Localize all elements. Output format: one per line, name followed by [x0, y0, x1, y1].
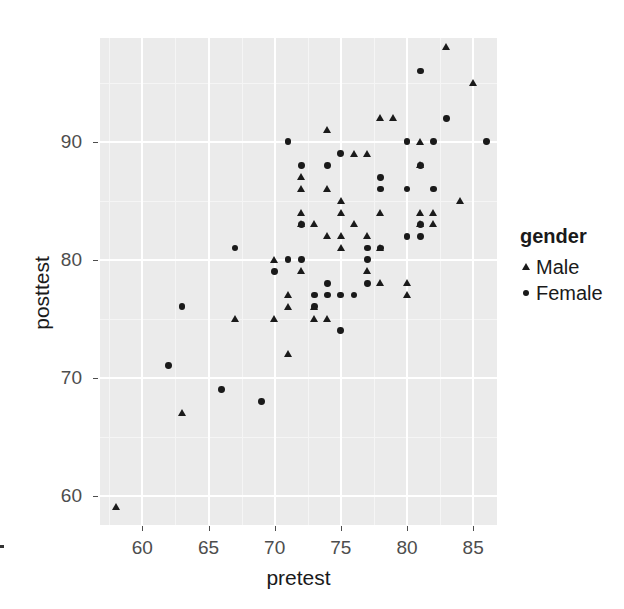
y-tick-label: 70: [61, 367, 82, 389]
legend-key: [516, 257, 536, 277]
y-tick-label: 80: [61, 249, 82, 271]
legend: gender MaleFemale: [516, 225, 622, 306]
x-tick-label: 70: [264, 537, 285, 559]
legend-label: Female: [536, 282, 603, 305]
x-axis-title: pretest: [100, 566, 497, 590]
gridline-minor-vertical: [175, 38, 176, 525]
gridline-major-horizontal: [100, 259, 497, 261]
x-tick-mark: [473, 526, 474, 531]
circle-marker-icon: [417, 233, 424, 240]
x-tick-mark: [142, 526, 143, 531]
triangle-marker-icon: [522, 263, 530, 270]
circle-marker-icon: [430, 186, 437, 193]
gridline-minor-vertical: [440, 38, 441, 525]
gridline-minor-vertical: [242, 38, 243, 525]
circle-marker-icon: [417, 68, 424, 75]
triangle-marker-icon: [297, 267, 305, 274]
gridline-minor-horizontal: [100, 319, 497, 320]
circle-marker-icon: [324, 292, 331, 299]
gridline-major-vertical: [406, 38, 408, 525]
triangle-marker-icon: [178, 409, 186, 416]
y-tick-mark: [93, 142, 98, 143]
triangle-marker-icon: [310, 220, 318, 227]
circle-marker-icon: [232, 245, 239, 252]
triangle-marker-icon: [429, 220, 437, 227]
triangle-marker-icon: [363, 267, 371, 274]
x-tick-mark: [275, 526, 276, 531]
scatter-plot-figure: 60708090606570758085 pretest posttest ge…: [0, 0, 624, 609]
circle-marker-icon: [364, 280, 371, 287]
gridline-major-horizontal: [100, 495, 497, 497]
gridline-major-horizontal: [100, 377, 497, 379]
gridline-minor-horizontal: [100, 83, 497, 84]
y-tick-label: 60: [61, 485, 82, 507]
circle-marker-icon: [165, 362, 172, 369]
gridline-minor-horizontal: [100, 201, 497, 202]
triangle-marker-icon: [350, 220, 358, 227]
circle-marker-icon: [351, 292, 358, 299]
gridline-minor-vertical: [308, 38, 309, 525]
circle-marker-icon: [523, 290, 530, 297]
triangle-marker-icon: [416, 161, 424, 168]
gridline-major-vertical: [208, 38, 210, 525]
circle-marker-icon: [364, 245, 371, 252]
x-tick-label: 75: [330, 537, 351, 559]
circle-marker-icon: [377, 174, 384, 181]
triangle-marker-icon: [363, 150, 371, 157]
y-tick-mark: [93, 378, 98, 379]
gridline-major-vertical: [274, 38, 276, 525]
plot-panel: [100, 38, 497, 525]
triangle-marker-icon: [376, 279, 384, 286]
triangle-marker-icon: [112, 503, 120, 510]
x-tick-mark: [209, 526, 210, 531]
legend-key: [516, 283, 536, 303]
gridline-major-vertical: [472, 38, 474, 525]
triangle-marker-icon: [376, 209, 384, 216]
y-axis-title: posttest: [30, 173, 54, 413]
triangle-marker-icon: [297, 185, 305, 192]
page-edge-artifact: [0, 545, 4, 548]
circle-marker-icon: [311, 292, 318, 299]
triangle-marker-icon: [310, 303, 318, 310]
triangle-marker-icon: [323, 232, 331, 239]
circle-marker-icon: [377, 186, 384, 193]
legend-title: gender: [516, 225, 622, 248]
gridline-minor-vertical: [109, 38, 110, 525]
x-tick-label: 85: [463, 537, 484, 559]
y-tick-mark: [93, 260, 98, 261]
circle-marker-icon: [417, 162, 424, 169]
triangle-marker-icon: [442, 43, 450, 50]
circle-marker-icon: [417, 221, 424, 228]
circle-marker-icon: [443, 115, 450, 122]
triangle-marker-icon: [297, 220, 305, 227]
circle-marker-icon: [324, 280, 331, 287]
circle-marker-icon: [298, 221, 305, 228]
triangle-marker-icon: [416, 209, 424, 216]
x-tick-mark: [341, 526, 342, 531]
triangle-marker-icon: [284, 350, 292, 357]
triangle-marker-icon: [284, 291, 292, 298]
legend-items: MaleFemale: [516, 254, 622, 306]
triangle-marker-icon: [416, 220, 424, 227]
x-tick-mark: [407, 526, 408, 531]
circle-marker-icon: [258, 398, 265, 405]
triangle-marker-icon: [376, 244, 384, 251]
circle-marker-icon: [179, 303, 186, 310]
triangle-marker-icon: [389, 114, 397, 121]
triangle-marker-icon: [297, 173, 305, 180]
triangle-marker-icon: [284, 303, 292, 310]
legend-item-female[interactable]: Female: [516, 280, 622, 306]
circle-marker-icon: [324, 162, 331, 169]
gridline-major-vertical: [340, 38, 342, 525]
legend-item-male[interactable]: Male: [516, 254, 622, 280]
circle-marker-icon: [298, 162, 305, 169]
gridline-minor-vertical: [374, 38, 375, 525]
gridline-major-vertical: [141, 38, 143, 525]
circle-marker-icon: [377, 245, 384, 252]
circle-marker-icon: [218, 386, 225, 393]
gridline-minor-horizontal: [100, 437, 497, 438]
triangle-marker-icon: [297, 209, 305, 216]
x-tick-label: 60: [132, 537, 153, 559]
triangle-marker-icon: [350, 150, 358, 157]
triangle-marker-icon: [429, 209, 437, 216]
